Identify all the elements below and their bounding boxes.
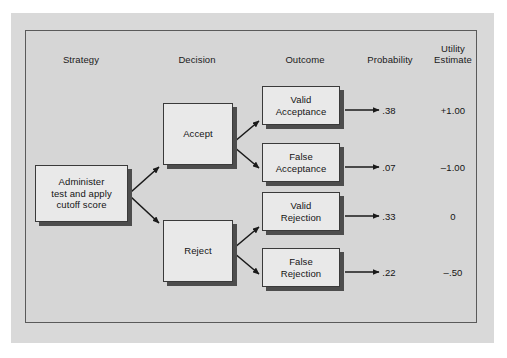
- outcome-box-valid-acceptance[interactable]: Valid Acceptance: [262, 86, 340, 125]
- outcome-box-valid-acceptance-face: Valid Acceptance: [262, 86, 340, 125]
- decision-tree-figure: Strategy Decision Outcome Probability Ut…: [0, 0, 507, 358]
- outcome-box-false-acceptance-face: False Acceptance: [262, 143, 340, 182]
- outcome-box-false-rejection[interactable]: False Rejection: [262, 248, 340, 287]
- outcome-box-false-rejection-label: False Rejection: [281, 256, 322, 279]
- probability-value-false-acceptance: .07: [368, 162, 410, 173]
- outcome-box-false-rejection-face: False Rejection: [262, 248, 340, 287]
- utility-value-valid-rejection: 0: [420, 211, 486, 222]
- utility-value-false-rejection: –.50: [420, 267, 486, 278]
- decision-box-accept[interactable]: Accept: [163, 103, 233, 165]
- probability-value-valid-rejection: .33: [368, 211, 410, 222]
- column-header-utility-line1: Utility: [422, 43, 484, 54]
- strategy-box-face: Administer test and apply cutoff score: [35, 165, 128, 222]
- outcome-box-valid-rejection[interactable]: Valid Rejection: [262, 192, 340, 231]
- strategy-box-label: Administer test and apply cutoff score: [51, 176, 112, 211]
- probability-value-false-rejection: .22: [368, 267, 410, 278]
- outcome-box-valid-rejection-face: Valid Rejection: [262, 192, 340, 231]
- column-header-strategy: Strategy: [41, 54, 121, 65]
- decision-box-accept-face: Accept: [163, 103, 233, 165]
- decision-box-reject-label: Reject: [184, 245, 212, 257]
- column-header-decision: Decision: [157, 54, 237, 65]
- probability-value-valid-acceptance: .38: [368, 105, 410, 116]
- decision-box-reject-face: Reject: [163, 220, 233, 282]
- column-header-probability: Probability: [355, 54, 425, 65]
- utility-value-false-acceptance: –1.00: [420, 162, 486, 173]
- decision-box-reject[interactable]: Reject: [163, 220, 233, 282]
- decision-box-accept-label: Accept: [183, 128, 213, 140]
- outcome-box-valid-rejection-label: Valid Rejection: [281, 200, 322, 223]
- utility-value-valid-acceptance: +1.00: [420, 105, 486, 116]
- column-header-outcome: Outcome: [265, 54, 345, 65]
- outcome-box-false-acceptance-label: False Acceptance: [276, 151, 327, 174]
- outcome-box-false-acceptance[interactable]: False Acceptance: [262, 143, 340, 182]
- strategy-box[interactable]: Administer test and apply cutoff score: [35, 165, 128, 222]
- outcome-box-valid-acceptance-label: Valid Acceptance: [276, 94, 327, 117]
- column-header-utility-line2: Estimate: [422, 54, 484, 65]
